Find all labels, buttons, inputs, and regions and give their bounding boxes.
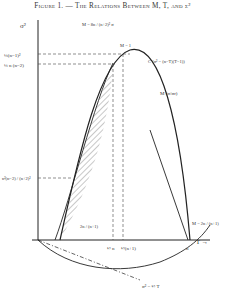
y-axis-label: σ² <box>20 22 26 30</box>
m-small-label: 2n / (n+1) <box>80 224 99 229</box>
c-curve-label: C (σ² = (n−T)(T−1)) <box>148 59 185 64</box>
m-formula-top: M = 8n / (n+2)² σ <box>82 22 114 27</box>
xtick-2: ½(n+1) <box>121 246 136 251</box>
m-bottom-right: M = 2n / (n+1) <box>192 221 219 226</box>
m-equals-1: M = 1 <box>120 43 131 48</box>
lower-line-label: σ² = ½ T <box>142 284 160 289</box>
c-curve <box>60 49 190 240</box>
shaded-region <box>60 63 118 240</box>
ytick-3: n²(n−2) / (n+2)² <box>2 176 31 181</box>
diagram-canvas: σ² T → ¼(n−1)² ¼ n (n−2) n²(n−2) / (n+2)… <box>0 0 225 291</box>
x-axis-label: T → <box>196 238 208 245</box>
ytick-2: ¼ n (n−2) <box>4 63 24 68</box>
ytick-1: ¼(n−1)² <box>4 53 21 58</box>
xtick-1: ½ n <box>107 246 115 251</box>
m-curve-label: M (σ/σr) <box>160 91 178 96</box>
m-sigma-line <box>150 130 188 240</box>
